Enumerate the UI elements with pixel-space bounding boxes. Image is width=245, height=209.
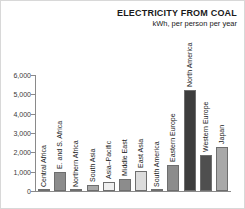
bar-slot[interactable]: South America [151,75,163,191]
bar-slot[interactable]: North America [184,75,196,191]
bar-category-label: E. and S. Africa [56,121,63,169]
bar-slot[interactable]: E. and S. Africa [54,75,66,191]
bar-label-wrap: Middle East [119,75,131,191]
y-axis-tick-label: 1,000 [2,168,31,175]
chart-subtitle: kWh, per person per year [117,20,237,29]
bar[interactable] [103,182,115,191]
bar-category-label: Eastern Europe [169,114,176,163]
bar-label-wrap: South Asia [87,75,99,191]
bar[interactable] [184,90,196,191]
plot-area: Central AfricaE. and S. AfricaNorthern A… [36,75,230,191]
bar-slot[interactable]: Japan [216,75,228,191]
bar[interactable] [167,165,179,191]
bar[interactable] [87,185,99,191]
bar-slot[interactable]: South Asia [87,75,99,191]
bar-category-label: Japan [218,124,225,143]
bar-label-wrap: Central Africa [38,75,50,191]
y-axis-labels: 01,0002,0003,0004,0005,0006,000 [0,0,31,209]
bar-label-wrap: South America [151,75,163,191]
bar-category-label: Northern Africa [72,140,79,187]
bar[interactable] [216,147,228,191]
bar[interactable] [38,189,50,191]
bar-category-label: Asia–Pacific [105,141,112,179]
bar[interactable] [151,189,163,191]
y-axis-tick-label: 4,000 [2,110,31,117]
bar[interactable] [54,172,66,191]
bar-slot[interactable]: Northern Africa [70,75,82,191]
bar-category-label: Middle East [121,139,128,176]
bar-slot[interactable]: Central Africa [38,75,50,191]
bar-slot[interactable]: Eastern Europe [167,75,179,191]
bar[interactable] [119,179,131,191]
bar-category-label: North America [186,43,193,87]
bar-category-label: South Asia [89,149,96,182]
y-axis-tick-label: 0 [2,188,31,195]
y-axis-tick-label: 6,000 [2,72,31,79]
bar-category-label: South America [153,141,160,187]
bar-category-label: Western Europe [202,102,209,152]
bar[interactable] [70,189,82,191]
bar-category-label: East Asia [137,139,144,168]
bar-slot[interactable]: East Asia [135,75,147,191]
bar[interactable] [200,155,212,191]
bar-label-wrap: Asia–Pacific [103,75,115,191]
bar-category-label: Central Africa [40,145,47,187]
y-axis-tick-label: 3,000 [2,130,31,137]
y-axis-tick-label: 5,000 [2,91,31,98]
chart-container: ELECTRICITY FROM COAL kWh, per person pe… [0,0,245,209]
bar[interactable] [135,171,147,191]
bar-slot[interactable]: Western Europe [200,75,212,191]
x-axis-line [35,191,231,192]
chart-title: ELECTRICITY FROM COAL [117,8,237,18]
bar-slot[interactable]: Asia–Pacific [103,75,115,191]
bar-slot[interactable]: Middle East [119,75,131,191]
bar-label-wrap: Northern Africa [70,75,82,191]
chart-title-block: ELECTRICITY FROM COAL kWh, per person pe… [117,8,237,29]
y-axis-tick-label: 2,000 [2,149,31,156]
